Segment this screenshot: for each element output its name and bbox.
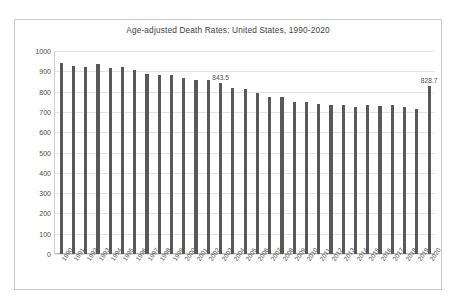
bar-slot[interactable] xyxy=(104,51,116,254)
bar[interactable] xyxy=(194,80,197,254)
bar-slot[interactable] xyxy=(374,51,386,254)
bar[interactable] xyxy=(133,70,136,254)
bar[interactable] xyxy=(219,83,222,254)
x-tick-slot: 2002 xyxy=(202,256,214,296)
bar[interactable] xyxy=(256,93,259,254)
chart-container: Age-adjusted Death Rates: United States,… xyxy=(14,19,442,290)
x-tick-slot: 1993 xyxy=(92,256,104,296)
bar[interactable] xyxy=(244,89,247,254)
bar[interactable] xyxy=(342,105,345,254)
bar-slot[interactable] xyxy=(386,51,398,254)
bar-slot[interactable]: 828.7 xyxy=(423,51,435,254)
bar-slot[interactable] xyxy=(251,51,263,254)
x-axis-labels: 1990199119921993199419951996199719981999… xyxy=(55,256,435,296)
x-tick-slot: 1995 xyxy=(116,256,128,296)
bar-value-label: 828.7 xyxy=(421,77,438,84)
y-axis-tick-label: 800 xyxy=(39,88,51,95)
bar[interactable] xyxy=(121,67,124,254)
x-tick-slot: 1990 xyxy=(55,256,67,296)
bar-slot[interactable] xyxy=(264,51,276,254)
x-tick-slot: 1998 xyxy=(153,256,165,296)
x-tick-slot: 2009 xyxy=(288,256,300,296)
bar-slot[interactable] xyxy=(67,51,79,254)
bar[interactable] xyxy=(317,104,320,254)
x-tick-slot: 2014 xyxy=(349,256,361,296)
x-tick-slot: 2013 xyxy=(337,256,349,296)
bar-slot[interactable] xyxy=(313,51,325,254)
bar-slot[interactable] xyxy=(202,51,214,254)
x-tick-slot: 2004 xyxy=(227,256,239,296)
screenshot-root: Age-adjusted Death Rates: United States,… xyxy=(0,0,457,307)
x-tick-slot: 2019 xyxy=(411,256,423,296)
y-axis-tick-label: 0 xyxy=(47,251,51,258)
bar[interactable] xyxy=(415,109,418,254)
bar[interactable] xyxy=(428,86,431,254)
bar-slot[interactable] xyxy=(165,51,177,254)
bar[interactable] xyxy=(60,63,63,254)
bar-slot[interactable] xyxy=(129,51,141,254)
bar[interactable] xyxy=(231,88,234,254)
bar[interactable] xyxy=(72,66,75,254)
x-tick-slot: 2006 xyxy=(251,256,263,296)
bar[interactable] xyxy=(182,78,185,254)
bar-series: 843.5828.7 xyxy=(55,51,435,254)
x-tick-slot: 1999 xyxy=(165,256,177,296)
x-tick-slot: 2018 xyxy=(398,256,410,296)
bar-slot[interactable] xyxy=(153,51,165,254)
y-axis-tick-label: 600 xyxy=(39,129,51,136)
bar-slot[interactable] xyxy=(55,51,67,254)
bar-slot[interactable] xyxy=(325,51,337,254)
bar[interactable] xyxy=(403,107,406,254)
bar[interactable] xyxy=(268,97,271,254)
bar-slot[interactable] xyxy=(337,51,349,254)
bar-slot[interactable]: 843.5 xyxy=(214,51,226,254)
bar[interactable] xyxy=(391,105,394,254)
x-tick-slot: 2000 xyxy=(178,256,190,296)
x-tick-slot: 2001 xyxy=(190,256,202,296)
bar-slot[interactable] xyxy=(190,51,202,254)
bar-slot[interactable] xyxy=(178,51,190,254)
x-tick-slot: 2012 xyxy=(325,256,337,296)
bar-slot[interactable] xyxy=(288,51,300,254)
bar[interactable] xyxy=(84,67,87,254)
bar-slot[interactable] xyxy=(239,51,251,254)
y-axis-tick-label: 200 xyxy=(39,210,51,217)
bar[interactable] xyxy=(329,105,332,254)
bar[interactable] xyxy=(280,97,283,254)
y-axis-tick-label: 100 xyxy=(39,230,51,237)
bar-slot[interactable] xyxy=(141,51,153,254)
x-tick-slot: 2017 xyxy=(386,256,398,296)
bar[interactable] xyxy=(378,106,381,254)
x-tick-slot: 2020 xyxy=(423,256,435,296)
bar-slot[interactable] xyxy=(300,51,312,254)
x-tick-slot: 2007 xyxy=(264,256,276,296)
bar[interactable] xyxy=(170,75,173,254)
bar[interactable] xyxy=(158,75,161,254)
x-tick-slot: 1997 xyxy=(141,256,153,296)
x-tick-slot: 1991 xyxy=(67,256,79,296)
x-tick-slot: 2003 xyxy=(214,256,226,296)
bar[interactable] xyxy=(293,102,296,254)
bar-slot[interactable] xyxy=(276,51,288,254)
bar-slot[interactable] xyxy=(349,51,361,254)
bar[interactable] xyxy=(96,64,99,254)
bar[interactable] xyxy=(366,105,369,254)
bar[interactable] xyxy=(145,74,148,254)
y-axis-tick-label: 500 xyxy=(39,149,51,156)
bar-slot[interactable] xyxy=(398,51,410,254)
bar[interactable] xyxy=(207,80,210,254)
bar-slot[interactable] xyxy=(362,51,374,254)
bar[interactable] xyxy=(109,68,112,254)
y-axis-tick-label: 300 xyxy=(39,190,51,197)
bar[interactable] xyxy=(305,102,308,254)
bar[interactable] xyxy=(354,107,357,254)
y-axis-tick-label: 1000 xyxy=(35,48,51,55)
bar-slot[interactable] xyxy=(80,51,92,254)
x-tick-slot: 2008 xyxy=(276,256,288,296)
x-tick-slot: 2016 xyxy=(374,256,386,296)
bar-slot[interactable] xyxy=(92,51,104,254)
bar-slot[interactable] xyxy=(116,51,128,254)
chart-title: Age-adjusted Death Rates: United States,… xyxy=(15,25,441,35)
y-axis-tick-label: 900 xyxy=(39,68,51,75)
bar-slot[interactable] xyxy=(227,51,239,254)
